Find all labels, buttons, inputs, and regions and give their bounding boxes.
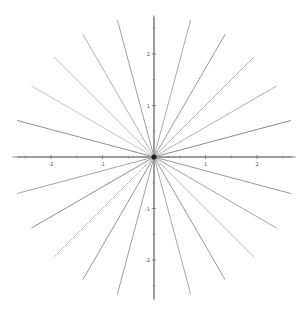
ray-line	[154, 157, 254, 257]
ray-line	[83, 34, 154, 157]
origin-point	[152, 155, 157, 160]
x-tick-label: -1	[100, 161, 105, 167]
ray-line	[154, 157, 191, 294]
ray-line	[31, 157, 154, 228]
ray-line	[154, 120, 291, 157]
y-tick-label: -2	[145, 257, 150, 263]
y-tick-label: 2	[147, 51, 150, 57]
ray-line	[154, 20, 191, 157]
ray-line	[31, 86, 154, 157]
ray-line	[154, 34, 225, 157]
y-tick-label: -1	[145, 206, 150, 212]
ray-line	[117, 157, 154, 294]
ray-line	[154, 57, 254, 157]
ray-line	[154, 157, 277, 228]
x-tick-label: -2	[49, 161, 54, 167]
x-tick-label: 2	[255, 161, 258, 167]
ray-line	[54, 157, 154, 257]
ray-line	[83, 157, 154, 280]
ray-line	[54, 57, 154, 157]
starburst-chart: -2-112 -2-112	[0, 0, 303, 311]
ray-line	[17, 120, 154, 157]
ray-line	[17, 157, 154, 194]
ray-line	[154, 86, 277, 157]
ray-line	[117, 20, 154, 157]
ray-line	[154, 157, 225, 280]
x-tick-label: 1	[204, 161, 207, 167]
ray-line	[154, 157, 291, 194]
y-tick-label: 1	[147, 103, 150, 109]
